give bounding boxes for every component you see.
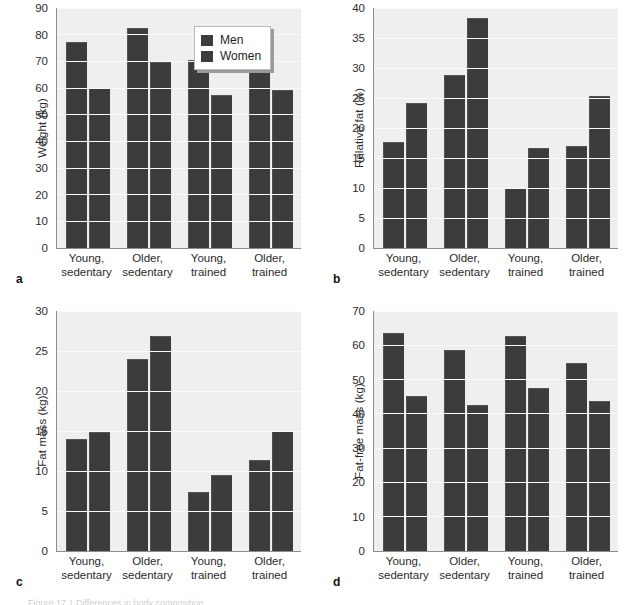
panel-c-ytick-15: 15	[35, 425, 48, 437]
panel-a-gridline-30	[57, 168, 301, 169]
panel-d-gridline-40	[374, 413, 618, 414]
panel-a-bar-women-3	[211, 95, 232, 248]
panel-d-bar-men-4	[566, 363, 587, 551]
panel-d-ytick-labels: 010203040506070	[343, 311, 369, 551]
panel-b-ytick-5: 5	[359, 212, 365, 224]
panel-b-letter: b	[333, 272, 340, 286]
category-line1: Older,	[434, 252, 495, 266]
panel-d-ytick-70: 70	[352, 305, 365, 317]
panel-c-ytick-25: 25	[35, 345, 48, 357]
panel-d-bar-men-2	[444, 350, 465, 551]
panel-c-ytick-0: 0	[42, 545, 48, 557]
panel-d: Fat-free mass (kg) 010203040506070 Young…	[317, 303, 633, 605]
panel-b-bar-women-4	[589, 96, 610, 248]
panel-c-bar-men-1	[66, 439, 87, 551]
panel-d-group-1	[374, 311, 435, 551]
panel-a-ytick-90: 90	[35, 2, 48, 14]
panel-d-bar-women-1	[406, 396, 427, 551]
panel-a-gridline-90	[57, 8, 301, 9]
category-line2: trained	[556, 569, 617, 583]
panel-a-gridline-60	[57, 88, 301, 89]
category-line2: sedentary	[434, 569, 495, 583]
panel-b-bar-women-2	[467, 18, 488, 248]
panel-c-gridline-10	[57, 471, 301, 472]
panel-b-ytick-30: 30	[352, 62, 365, 74]
panel-c-gridline-20	[57, 391, 301, 392]
panel-d-ytick-50: 50	[352, 374, 365, 386]
panel-b-bar-women-1	[406, 103, 427, 248]
panel-c-ytick-labels: 051015202530	[26, 311, 52, 551]
panel-d-group-4	[557, 311, 618, 551]
legend-label-men: Men	[220, 34, 243, 46]
category-line2: sedentary	[56, 266, 117, 280]
category-line1: Older,	[117, 555, 178, 569]
panel-c-gridline-15	[57, 431, 301, 432]
panel-b-ytick-15: 15	[352, 152, 365, 164]
panel-a-gridline-10	[57, 221, 301, 222]
panel-c-plot-area	[56, 311, 301, 552]
panel-c-ytick-5: 5	[42, 505, 48, 517]
panel-b-gridline-20	[374, 128, 618, 129]
panel-d-bar-women-2	[467, 405, 488, 551]
panel-d-gridline-30	[374, 448, 618, 449]
panel-b-gridline-30	[374, 68, 618, 69]
panel-b-ytick-25: 25	[352, 92, 365, 104]
panel-b-gridline-25	[374, 98, 618, 99]
panel-d-gridline-70	[374, 311, 618, 312]
panel-d-ytick-40: 40	[352, 408, 365, 420]
panel-a-group-2	[118, 8, 179, 248]
panel-c-category-label-4: Older,trained	[239, 555, 300, 582]
panel-a-ytick-50: 50	[35, 109, 48, 121]
panel-b-gridline-5	[374, 218, 618, 219]
panel-a-gridline-20	[57, 194, 301, 195]
panel-d-bar-women-4	[589, 401, 610, 551]
figure-sheet: Weight (kg) 0102030405060708090 Young,se…	[0, 0, 633, 605]
legend-swatch-women-icon	[201, 51, 213, 62]
panel-a-gridline-40	[57, 141, 301, 142]
panel-d-ytick-60: 60	[352, 339, 365, 351]
panel-d-ytick-10: 10	[352, 511, 365, 523]
panel-c-bar-women-2	[150, 336, 171, 551]
panel-a-ytick-60: 60	[35, 82, 48, 94]
category-line1: Young,	[373, 555, 434, 569]
panel-a-ytick-labels: 0102030405060708090	[26, 8, 52, 248]
panel-d-category-label-3: Young,trained	[495, 555, 556, 582]
panel-c-category-label-1: Young,sedentary	[56, 555, 117, 582]
panel-b-gridline-15	[374, 158, 618, 159]
panel-c-letter: c	[16, 575, 23, 589]
panel-b-ytick-35: 35	[352, 32, 365, 44]
panel-a-ytick-20: 20	[35, 189, 48, 201]
panel-b-category-label-2: Older,sedentary	[434, 252, 495, 279]
category-line2: sedentary	[434, 266, 495, 280]
category-line2: sedentary	[373, 569, 434, 583]
panel-d-category-label-2: Older,sedentary	[434, 555, 495, 582]
panel-c-gridline-25	[57, 351, 301, 352]
panel-d-gridline-10	[374, 516, 618, 517]
panel-a-category-label-1: Young,sedentary	[56, 252, 117, 279]
category-line1: Young,	[495, 555, 556, 569]
category-line1: Older,	[239, 252, 300, 266]
category-line1: Young,	[373, 252, 434, 266]
legend-row-women: Women	[201, 48, 261, 64]
panel-d-bar-men-3	[505, 336, 526, 551]
panel-c-gridline-30	[57, 311, 301, 312]
panel-a-gridline-50	[57, 114, 301, 115]
panel-b-bar-men-2	[444, 75, 465, 248]
legend: Men Women	[194, 26, 271, 70]
panel-b-ytick-10: 10	[352, 182, 365, 194]
panel-c-bar-men-4	[249, 460, 270, 551]
panel-b-plot-area	[373, 8, 618, 249]
category-line1: Young,	[495, 252, 556, 266]
panel-d-gridline-20	[374, 482, 618, 483]
panel-a-category-label-2: Older,sedentary	[117, 252, 178, 279]
category-line1: Young,	[56, 555, 117, 569]
panel-b-category-label-3: Young,trained	[495, 252, 556, 279]
panel-c-category-label-3: Young,trained	[178, 555, 239, 582]
panel-b-bar-women-3	[528, 148, 549, 248]
panel-a-ytick-70: 70	[35, 55, 48, 67]
legend-swatch-men-icon	[201, 35, 213, 46]
panel-a-bar-men-1	[66, 42, 87, 248]
panel-c-gridline-5	[57, 511, 301, 512]
panel-d-category-label-4: Older,trained	[556, 555, 617, 582]
panel-c-category-label-2: Older,sedentary	[117, 555, 178, 582]
